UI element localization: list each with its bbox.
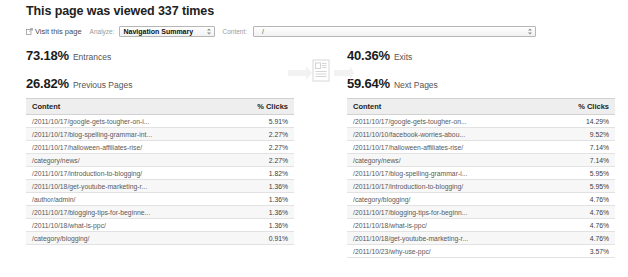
previous-pages-table: Content % Clicks /2011/10/17/google-gets… xyxy=(26,98,294,245)
visit-this-page-label: Visit this page xyxy=(35,27,82,36)
cell-clicks: 1.36% xyxy=(238,193,294,206)
cell-content[interactable]: /2011/10/17/blog-spelling-grammar-int... xyxy=(26,128,238,141)
analyze-select[interactable]: Navigation Summary xyxy=(119,26,215,37)
column-header-content[interactable]: Content xyxy=(347,99,559,115)
cell-content[interactable]: /2011/10/23/why-use-ppc/ xyxy=(347,245,559,258)
analyze-select-value: Navigation Summary xyxy=(124,28,194,35)
cell-clicks: 7.14% xyxy=(559,141,615,154)
cell-clicks: 9.52% xyxy=(559,128,615,141)
table-row[interactable]: /2011/10/17/introduction-to-blogging/5.9… xyxy=(347,180,615,193)
cell-clicks: 5.95% xyxy=(559,180,615,193)
cell-content[interactable]: /category/news/ xyxy=(347,154,559,167)
column-header-content[interactable]: Content xyxy=(26,99,238,115)
cell-content[interactable]: /2011/10/18/get-youtube-marketing-r... xyxy=(347,232,559,245)
table-row[interactable]: /2011/10/17/halloween-affiliates-rise/7.… xyxy=(347,141,615,154)
column-header-clicks[interactable]: % Clicks xyxy=(559,99,615,115)
table-row[interactable]: /2011/10/18/what-is-ppc/4.76% xyxy=(347,219,615,232)
previous-pages-table-body: /2011/10/17/google-gets-tougher-on-i...5… xyxy=(26,115,294,245)
cell-content[interactable]: /2011/10/17/introduction-to-blogging/ xyxy=(26,167,238,180)
column-header-clicks[interactable]: % Clicks xyxy=(238,99,294,115)
stat-entrances: 73.18% Entrances xyxy=(26,48,111,63)
cell-clicks: 14.29% xyxy=(559,115,615,128)
cell-content[interactable]: /2011/10/18/get-youtube-marketing-r... xyxy=(26,180,238,193)
cell-clicks: 5.91% xyxy=(238,115,294,128)
cell-clicks: 1.82% xyxy=(238,167,294,180)
analyze-label: Analyze: xyxy=(90,28,115,35)
stat-next-pages: 59.64% Next Pages xyxy=(347,76,438,91)
cell-content[interactable]: /category/blogging/ xyxy=(347,193,559,206)
table-row[interactable]: /2011/10/18/get-youtube-marketing-r...4.… xyxy=(347,232,615,245)
cell-clicks: 5.95% xyxy=(559,167,615,180)
table-header-row: Content % Clicks xyxy=(26,99,294,115)
table-row[interactable]: /category/news/7.14% xyxy=(347,154,615,167)
table-row[interactable]: /2011/10/17/blogging-tips-for-beginne...… xyxy=(26,206,294,219)
content-label: Content: xyxy=(223,28,248,35)
cell-clicks: 4.76% xyxy=(559,219,615,232)
table-row[interactable]: /2011/10/17/blog-spelling-grammar-int...… xyxy=(26,128,294,141)
table-row[interactable]: /2011/10/17/halloween-affiliates-rise/2.… xyxy=(26,141,294,154)
page-document-flow-icon xyxy=(288,54,354,94)
cell-content[interactable]: /2011/10/17/halloween-affiliates-rise/ xyxy=(347,141,559,154)
cell-content[interactable]: /2011/10/10/facebook-worries-abou... xyxy=(347,128,559,141)
table-row[interactable]: /2011/10/23/why-use-ppc/3.57% xyxy=(347,245,615,258)
cell-clicks: 4.76% xyxy=(559,193,615,206)
stat-entrances-value: 73.18% xyxy=(26,48,69,63)
cell-content[interactable]: /2011/10/18/what-is-ppc/ xyxy=(347,219,559,232)
next-pages-table: Content % Clicks /2011/10/17/google-gets… xyxy=(347,98,615,258)
table-row[interactable]: /2011/10/17/google-gets-tougher-on...14.… xyxy=(347,115,615,128)
content-select-value: / xyxy=(262,28,264,35)
navigation-summary-report: This page was viewed 337 times Visit thi… xyxy=(0,0,628,277)
cell-content[interactable]: /2011/10/17/blogging-tips-for-beginn... xyxy=(347,206,559,219)
stat-previous-pages-label: Previous Pages xyxy=(73,80,133,90)
cell-content[interactable]: /2011/10/18/what-is-ppc/ xyxy=(26,219,238,232)
stat-next-pages-label: Next Pages xyxy=(394,80,438,90)
cell-content[interactable]: /author/admin/ xyxy=(26,193,238,206)
table-row[interactable]: /2011/10/18/what-is-ppc/1.36% xyxy=(26,219,294,232)
cell-clicks: 2.27% xyxy=(238,141,294,154)
table-row[interactable]: /2011/10/18/get-youtube-marketing-r...1.… xyxy=(26,180,294,193)
cell-clicks: 4.76% xyxy=(559,232,615,245)
cell-content[interactable]: /2011/10/17/halloween-affiliates-rise/ xyxy=(26,141,238,154)
table-row[interactable]: /2011/10/17/blog-spelling-grammar-i...5.… xyxy=(347,167,615,180)
table-row[interactable]: /2011/10/17/google-gets-tougher-on-i...5… xyxy=(26,115,294,128)
table-header-row: Content % Clicks xyxy=(347,99,615,115)
content-select[interactable]: / xyxy=(253,26,536,37)
table-row[interactable]: /category/blogging/0.91% xyxy=(26,232,294,245)
table-row[interactable]: /author/admin/1.36% xyxy=(26,193,294,206)
stat-previous-pages-value: 26.82% xyxy=(26,76,69,91)
table-row[interactable]: /category/blogging/4.76% xyxy=(347,193,615,206)
cell-clicks: 1.36% xyxy=(238,219,294,232)
cell-clicks: 2.27% xyxy=(238,154,294,167)
table-row[interactable]: /category/news/2.27% xyxy=(26,154,294,167)
chevron-down-icon xyxy=(527,27,533,36)
stat-exits-label: Exits xyxy=(394,52,412,62)
table-row[interactable]: /2011/10/10/facebook-worries-abou...9.52… xyxy=(347,128,615,141)
cell-clicks: 1.36% xyxy=(238,180,294,193)
next-pages-table-body: /2011/10/17/google-gets-tougher-on...14.… xyxy=(347,115,615,258)
visit-this-page-link[interactable]: Visit this page xyxy=(26,27,82,36)
cell-content[interactable]: /2011/10/17/blog-spelling-grammar-i... xyxy=(347,167,559,180)
cell-clicks: 0.91% xyxy=(238,232,294,245)
controls-bar: Visit this page Analyze: Navigation Summ… xyxy=(26,24,606,38)
cell-content[interactable]: /category/blogging/ xyxy=(26,232,238,245)
external-link-icon xyxy=(26,28,33,35)
page-title: This page was viewed 337 times xyxy=(26,4,214,18)
cell-clicks: 7.14% xyxy=(559,154,615,167)
cell-clicks: 1.36% xyxy=(238,206,294,219)
stat-exits: 40.36% Exits xyxy=(347,48,412,63)
cell-content[interactable]: /2011/10/17/blogging-tips-for-beginne... xyxy=(26,206,238,219)
cell-clicks: 4.76% xyxy=(559,206,615,219)
cell-content[interactable]: /2011/10/17/google-gets-tougher-on-i... xyxy=(26,115,238,128)
cell-content[interactable]: /category/news/ xyxy=(26,154,238,167)
table-row[interactable]: /2011/10/17/introduction-to-blogging/1.8… xyxy=(26,167,294,180)
cell-clicks: 2.27% xyxy=(238,128,294,141)
cell-content[interactable]: /2011/10/17/google-gets-tougher-on... xyxy=(347,115,559,128)
chevron-down-icon xyxy=(206,27,212,36)
cell-content[interactable]: /2011/10/17/introduction-to-blogging/ xyxy=(347,180,559,193)
table-row[interactable]: /2011/10/17/blogging-tips-for-beginn...4… xyxy=(347,206,615,219)
cell-clicks: 3.57% xyxy=(559,245,615,258)
stat-entrances-label: Entrances xyxy=(73,52,111,62)
stat-previous-pages: 26.82% Previous Pages xyxy=(26,76,132,91)
